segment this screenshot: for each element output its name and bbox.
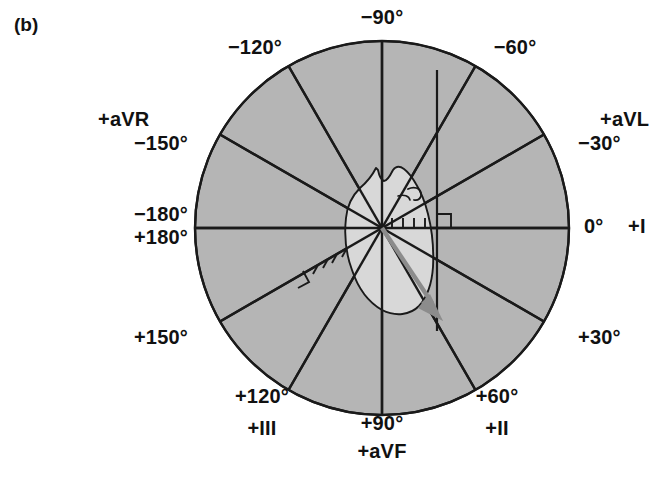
label-neg-180-angle: −180° [58, 203, 188, 226]
label-pos-120-angle: +120° [207, 385, 317, 408]
label-pos-180-angle: +180° [58, 226, 188, 249]
label-neg-90-angle: −90° [332, 6, 432, 29]
label-lead-iii: +III [207, 417, 317, 440]
label-neg-30-angle: −30° [578, 132, 621, 155]
label-pos-90-angle: +90° [332, 412, 432, 435]
label-neg-60-angle: −60° [465, 36, 565, 59]
label-pos-30-angle: +30° [578, 326, 621, 349]
label-lead-avf: +aVF [332, 440, 432, 463]
label-neg-150-angle: −150° [68, 132, 188, 155]
figure-panel-b: (b) [0, 0, 660, 488]
label-lead-i: +I [628, 215, 646, 238]
label-pos-150-angle: +150° [68, 326, 188, 349]
label-lead-ii: +II [447, 417, 547, 440]
label-avr-lead: +aVR [98, 108, 149, 131]
label-avl-lead: +aVL [600, 108, 649, 131]
label-neg-120-angle: −120° [200, 36, 310, 59]
label-pos-60-angle: +60° [447, 385, 547, 408]
label-zero-angle: 0° [584, 215, 604, 238]
